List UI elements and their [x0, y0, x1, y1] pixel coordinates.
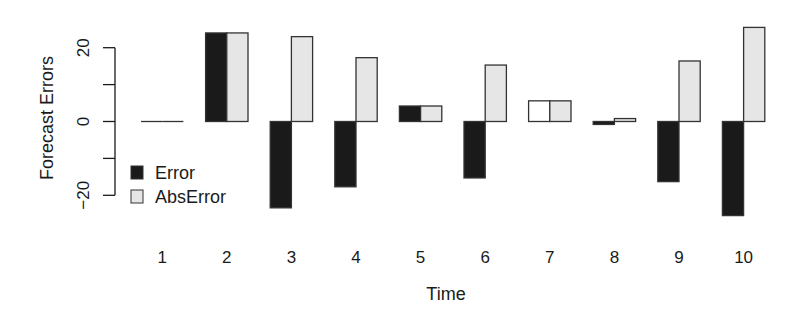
x-axis-title: Time — [426, 284, 465, 304]
x-tick-label: 10 — [734, 248, 753, 267]
bar-group-9 — [658, 61, 700, 182]
bar-groups — [141, 27, 765, 215]
x-tick-label: 2 — [222, 248, 231, 267]
bar-abserror — [227, 33, 248, 122]
bar-group-3 — [270, 37, 312, 208]
bar-error — [593, 122, 614, 125]
bar-error — [399, 106, 420, 121]
bar-abserror — [614, 119, 635, 122]
bar-error — [206, 33, 227, 122]
bar-error — [722, 122, 743, 216]
y-axis-title: Forecast Errors — [37, 56, 57, 180]
y-axis: 200−20 — [74, 38, 115, 209]
bar-error — [335, 122, 356, 187]
bar-abserror — [485, 65, 506, 121]
x-tick-label: 7 — [545, 248, 554, 267]
bar-error — [658, 122, 679, 182]
bar-abserror — [291, 37, 312, 122]
forecast-errors-bar-chart: 200−20 Forecast Errors 12345678910 Time … — [0, 0, 804, 311]
bar-group-4 — [335, 58, 377, 187]
bar-error — [464, 122, 485, 178]
bar-error — [529, 101, 550, 122]
bar-abserror — [356, 58, 377, 122]
legend-label-abserror: AbsError — [155, 187, 226, 207]
x-tick-label: 3 — [287, 248, 296, 267]
y-tick-label: 0 — [74, 117, 93, 126]
y-tick-label: −20 — [74, 181, 93, 210]
legend-swatch-error — [131, 166, 143, 179]
bar-abserror — [421, 106, 442, 121]
bar-abserror — [550, 101, 571, 122]
legend-label-error: Error — [155, 163, 195, 183]
bar-group-2 — [206, 33, 248, 122]
bar-group-8 — [593, 119, 635, 125]
x-tick-label: 6 — [480, 248, 489, 267]
x-tick-label: 5 — [416, 248, 425, 267]
x-tick-label: 1 — [157, 248, 166, 267]
x-tick-label: 4 — [351, 248, 360, 267]
legend: ErrorAbsError — [131, 163, 226, 207]
bar-abserror — [679, 61, 700, 122]
x-axis-labels: 12345678910 — [157, 248, 753, 267]
bar-group-10 — [722, 27, 764, 215]
chart-canvas: 200−20 Forecast Errors 12345678910 Time … — [0, 0, 804, 311]
legend-swatch-abserror — [131, 190, 143, 203]
bar-error — [270, 122, 291, 208]
bar-group-5 — [399, 106, 441, 121]
y-tick-label: 20 — [74, 38, 93, 57]
bar-abserror — [744, 27, 765, 121]
x-tick-label: 8 — [610, 248, 619, 267]
bar-group-6 — [464, 65, 506, 178]
bar-group-7 — [529, 101, 571, 122]
x-tick-label: 9 — [674, 248, 683, 267]
